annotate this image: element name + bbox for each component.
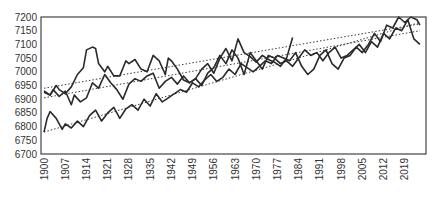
- x-tick-label: 1956: [208, 158, 219, 181]
- x-tick-label: 1914: [81, 158, 92, 181]
- y-tick-label: 7150: [15, 25, 38, 36]
- x-tick-label: 1949: [187, 158, 198, 181]
- x-tick-label: 2005: [357, 158, 368, 181]
- x-tick-label: 1907: [60, 158, 71, 181]
- x-tick-label: 2019: [399, 158, 410, 181]
- x-tick-label: 1928: [123, 158, 134, 181]
- y-tick-label: 6900: [15, 94, 38, 105]
- y-tick-label: 7100: [15, 39, 38, 50]
- y-tick-label: 7000: [15, 66, 38, 77]
- x-tick-label: 1998: [336, 158, 347, 181]
- y-tick-label: 6950: [15, 80, 38, 91]
- y-axis: 6700675068006850690069507000705071007150…: [15, 12, 38, 160]
- y-tick-label: 6850: [15, 107, 38, 118]
- x-tick-label: 1970: [251, 158, 262, 181]
- y-tick-label: 6700: [15, 149, 38, 160]
- trendline-1: [44, 24, 420, 88]
- x-tick-label: 1977: [272, 158, 283, 181]
- x-tick-label: 1942: [166, 158, 177, 181]
- x-tick-label: 1921: [102, 158, 113, 181]
- y-tick-label: 6800: [15, 121, 38, 132]
- x-tick-label: 1963: [230, 158, 241, 181]
- series-lines: [44, 17, 420, 132]
- series-line-3: [44, 17, 420, 132]
- trendlines: [44, 22, 420, 132]
- x-tick-label: 1900: [39, 158, 50, 181]
- x-tick-label: 2012: [378, 158, 389, 181]
- x-axis: 1900190719141921192819351942194919561963…: [39, 158, 411, 181]
- y-tick-label: 6750: [15, 135, 38, 146]
- line-chart: 6700675068006850690069507000705071007150…: [0, 0, 436, 198]
- trendline-2: [44, 31, 420, 98]
- series-line-1: [44, 38, 293, 96]
- y-tick-label: 7200: [15, 12, 38, 23]
- x-tick-label: 1935: [145, 158, 156, 181]
- trendline-3: [44, 22, 420, 132]
- plot-frame: [41, 17, 426, 154]
- x-tick-label: 1991: [314, 158, 325, 181]
- y-tick-label: 7050: [15, 53, 38, 64]
- series-line-2: [44, 20, 420, 105]
- x-tick-label: 1984: [293, 158, 304, 181]
